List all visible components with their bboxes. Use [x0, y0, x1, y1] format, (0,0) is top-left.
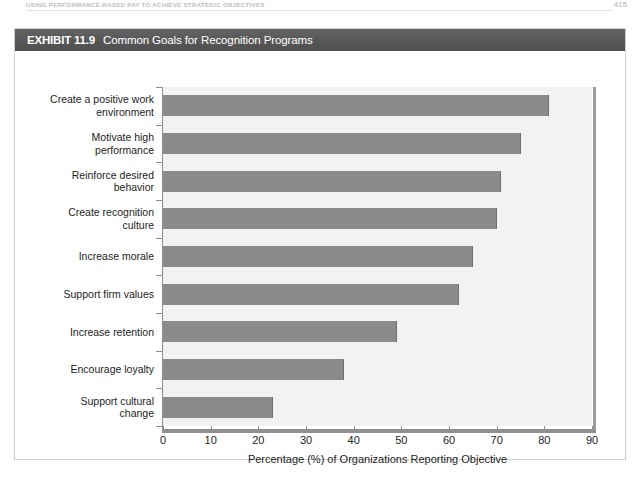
- exhibit-title: Common Goals for Recognition Programs: [103, 34, 313, 46]
- x-axis-tick-label: 10: [205, 434, 217, 446]
- bar: [163, 321, 397, 342]
- y-axis-tick: [156, 200, 163, 201]
- y-axis-label: Create a positive workenvironment: [15, 93, 154, 118]
- x-axis-tick-label: 0: [160, 434, 166, 446]
- exhibit-container: EXHIBIT 11.9 Common Goals for Recognitio…: [14, 28, 626, 460]
- bar: [163, 397, 273, 418]
- bar: [163, 208, 497, 229]
- y-axis-label: Support firm values: [15, 288, 154, 301]
- bar: [163, 359, 344, 380]
- y-axis-tick: [156, 388, 163, 389]
- x-axis-tick-label: 30: [300, 434, 312, 446]
- x-axis-tick-label: 90: [586, 434, 598, 446]
- bars-layer: [163, 87, 592, 426]
- bar-row: [163, 275, 592, 313]
- x-axis-title: Percentage (%) of Organizations Reportin…: [163, 453, 592, 465]
- page-number: 415: [614, 0, 627, 9]
- x-axis-tick: [449, 426, 450, 430]
- x-axis-tick-labels: 0102030405060708090: [163, 434, 592, 450]
- y-axis-tick: [156, 162, 163, 163]
- bar-row: [163, 388, 592, 426]
- bar-row: [163, 351, 592, 389]
- x-axis-tick: [258, 426, 259, 430]
- page-header: USING PERFORMANCE-BASED PAY TO ACHIEVE S…: [0, 0, 639, 14]
- x-axis-tick-label: 80: [538, 434, 550, 446]
- exhibit-titlebar: EXHIBIT 11.9 Common Goals for Recognitio…: [15, 29, 625, 51]
- y-axis-label: Encourage loyalty: [15, 363, 154, 376]
- x-axis-tick-label: 20: [252, 434, 264, 446]
- x-axis-tick: [592, 426, 593, 430]
- x-axis-tick: [354, 426, 355, 430]
- y-axis-tick: [156, 238, 163, 239]
- y-axis-tick: [156, 313, 163, 314]
- bar-row: [163, 238, 592, 276]
- y-axis-tick: [156, 125, 163, 126]
- y-axis-label: Motivate highperformance: [15, 131, 154, 156]
- axis-right-rule: [593, 87, 596, 432]
- bar-row: [163, 200, 592, 238]
- x-axis-tick: [211, 426, 212, 430]
- y-axis-label: Reinforce desiredbehavior: [15, 169, 154, 194]
- y-axis-tick: [156, 275, 163, 276]
- x-axis-tick: [163, 426, 164, 430]
- bar: [163, 284, 459, 305]
- x-axis-tick-label: 40: [348, 434, 360, 446]
- x-axis-tick-label: 60: [443, 434, 455, 446]
- y-axis-tick: [156, 351, 163, 352]
- y-axis-labels: Create a positive workenvironmentMotivat…: [15, 87, 154, 426]
- x-axis-tick-label: 70: [491, 434, 503, 446]
- bar: [163, 171, 501, 192]
- x-axis-tick: [401, 426, 402, 430]
- x-axis-tick-label: 50: [395, 434, 407, 446]
- bar-row: [163, 313, 592, 351]
- bar-row: [163, 162, 592, 200]
- bar: [163, 133, 521, 154]
- x-axis-tick: [544, 426, 545, 430]
- bar-chart: Create a positive workenvironmentMotivat…: [15, 51, 625, 459]
- x-axis-tick: [306, 426, 307, 430]
- y-axis-tick: [156, 87, 163, 88]
- exhibit-label: EXHIBIT 11.9: [27, 34, 95, 46]
- y-axis-label: Create recognitionculture: [15, 206, 154, 231]
- x-axis-ticks: [163, 426, 592, 434]
- header-divider: [26, 10, 613, 11]
- bar-row: [163, 125, 592, 163]
- bar-row: [163, 87, 592, 125]
- running-head: USING PERFORMANCE-BASED PAY TO ACHIEVE S…: [26, 1, 265, 8]
- x-axis-tick: [497, 426, 498, 430]
- y-axis-label: Support culturalchange: [15, 395, 154, 420]
- bar: [163, 246, 473, 267]
- y-axis-label: Increase retention: [15, 326, 154, 339]
- y-axis-label: Increase morale: [15, 250, 154, 263]
- y-axis-tick: [156, 426, 163, 427]
- bar: [163, 95, 549, 116]
